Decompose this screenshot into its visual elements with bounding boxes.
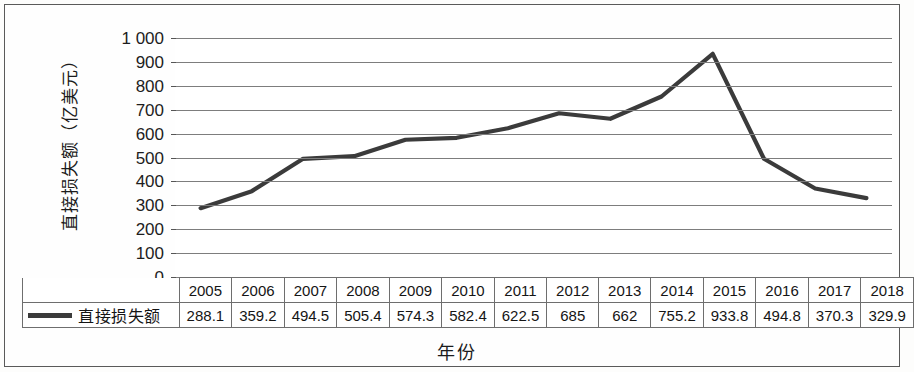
table-cell-value: 622.5 [494, 303, 547, 328]
table-cell-value: 933.8 [703, 303, 756, 328]
legend-label: 直接损失额 [78, 303, 161, 327]
legend-entry-direct-loss: 直接损失额 [23, 303, 180, 328]
table-cell-value: 494.8 [756, 303, 809, 328]
y-axis-tick-label: 300 [88, 197, 164, 214]
table-cell-year: 2016 [756, 278, 809, 303]
table-cell-year: 2009 [389, 278, 442, 303]
gridline [175, 205, 892, 206]
gridline [175, 38, 892, 39]
table-cell-value: 329.9 [861, 303, 914, 328]
table-cell-value: 494.5 [284, 303, 337, 328]
table-cell-year: 2007 [284, 278, 337, 303]
gridline [175, 158, 892, 159]
table-cell-year: 2012 [547, 278, 599, 303]
gridline [175, 62, 892, 63]
series-polyline [201, 54, 867, 208]
gridline [175, 86, 892, 87]
table-cell-year: 2018 [861, 278, 914, 303]
chart-screenshot: 直接损失额（亿美元） 1 000900800700600500400300200… [0, 0, 914, 372]
y-axis-tick-label: 200 [88, 221, 164, 238]
y-axis-tickmark [171, 86, 176, 87]
table-cell-value: 574.3 [389, 303, 442, 328]
table-cell-year: 2017 [808, 278, 861, 303]
legend-cell-empty [23, 278, 180, 303]
table-cell-value: 755.2 [651, 303, 704, 328]
y-axis-tickmark [171, 229, 176, 230]
y-axis-tick-label: 800 [88, 77, 164, 94]
y-axis-tick-label: 900 [88, 53, 164, 70]
table-cell-value: 662 [599, 303, 651, 328]
table-row-years: 2005200620072008200920102011201220132014… [23, 278, 914, 303]
table-cell-value: 370.3 [808, 303, 861, 328]
gridline [175, 229, 892, 230]
table-cell-value: 685 [547, 303, 599, 328]
table-cell-year: 2005 [179, 278, 232, 303]
table-cell-year: 2006 [232, 278, 285, 303]
chart-data-table: 2005200620072008200920102011201220132014… [22, 277, 914, 328]
table-cell-year: 2015 [703, 278, 756, 303]
y-axis-tickmark [171, 38, 176, 39]
table-cell-year: 2008 [337, 278, 390, 303]
y-axis-tick-label: 100 [88, 245, 164, 262]
table-cell-year: 2011 [494, 278, 547, 303]
x-axis-title: 年份 [22, 338, 892, 364]
y-axis-tickmark [171, 158, 176, 159]
y-axis-tickmark [171, 62, 176, 63]
y-axis-tickmark [171, 205, 176, 206]
table-cell-year: 2010 [442, 278, 495, 303]
y-axis-tickmark [171, 110, 176, 111]
gridline [175, 134, 892, 135]
table-cell-value: 288.1 [179, 303, 232, 328]
legend-line-icon [28, 313, 72, 318]
table-cell-value: 505.4 [337, 303, 390, 328]
gridline [175, 253, 892, 254]
table-cell-year: 2014 [651, 278, 704, 303]
y-axis-tickmark [171, 253, 176, 254]
y-axis-tick-label: 400 [88, 173, 164, 190]
y-axis-tickmark [171, 134, 176, 135]
y-axis-tick-label: 700 [88, 101, 164, 118]
table-cell-year: 2013 [599, 278, 651, 303]
y-axis-title: 直接损失额（亿美元） [56, 11, 81, 271]
gridline [175, 110, 892, 111]
table-cell-value: 359.2 [232, 303, 285, 328]
table-cell-value: 582.4 [442, 303, 495, 328]
y-axis-tickmark [171, 181, 176, 182]
y-axis-tick-label: 600 [88, 125, 164, 142]
plot-area [175, 38, 892, 277]
table-row-values: 直接损失额 288.1359.2494.5505.4574.3582.4622.… [23, 303, 914, 328]
y-axis-tick-label: 1 000 [88, 30, 164, 47]
y-axis-tick-labels: 1 0009008007006005004003002001000 [88, 38, 164, 277]
y-axis-tick-label: 500 [88, 149, 164, 166]
gridline [175, 181, 892, 182]
